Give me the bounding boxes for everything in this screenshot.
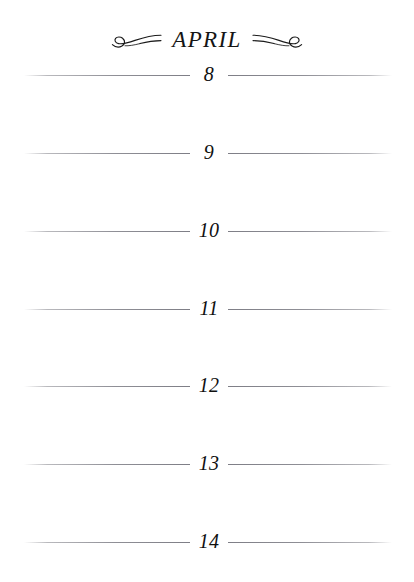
writing-rule-right [228,153,392,154]
day-rows-list: 8 9 10 11 12 13 [0,0,414,582]
writing-rule-right [228,464,392,465]
writing-rule-left [24,75,190,76]
writing-rule-right [228,231,392,232]
day-number: 11 [190,298,228,318]
writing-rule-left [24,386,190,387]
writing-rule-left [24,153,190,154]
day-number: 14 [190,531,228,551]
planner-page: APRIL 8 9 10 11 [0,0,414,582]
writing-rule-right [228,542,392,543]
day-number: 8 [190,64,228,84]
writing-rule-right [228,309,392,310]
day-row[interactable]: 14 [0,528,414,556]
day-row[interactable]: 11 [0,295,414,323]
writing-rule-left [24,464,190,465]
writing-rule-left [24,231,190,232]
day-number: 9 [190,142,228,162]
day-row[interactable]: 13 [0,450,414,478]
day-row[interactable]: 10 [0,217,414,245]
day-number: 13 [190,453,228,473]
writing-rule-left [24,542,190,543]
day-number: 10 [190,220,228,240]
writing-rule-right [228,386,392,387]
day-row[interactable]: 12 [0,372,414,400]
day-row[interactable]: 8 [0,61,414,89]
day-row[interactable]: 9 [0,139,414,167]
day-number: 12 [190,375,228,395]
writing-rule-right [228,75,392,76]
writing-rule-left [24,309,190,310]
